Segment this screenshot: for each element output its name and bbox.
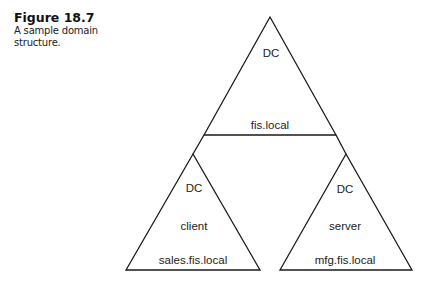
mfg-domain-name: mfg.fis.local: [315, 254, 376, 266]
mfg-role-label: server: [329, 220, 361, 232]
sales-role-label: client: [181, 220, 209, 232]
sales-domain-name: sales.fis.local: [159, 254, 227, 266]
domain-tree-diagram: DC fis.local DC client sales.fis.local D…: [0, 0, 438, 290]
mfg-dc-label: DC: [337, 183, 354, 195]
root-domain-name: fis.local: [251, 119, 289, 131]
root-domain-triangle: [204, 17, 336, 135]
child-domain-triangle-mfg: [280, 154, 412, 270]
root-right-extension: [336, 135, 346, 154]
child-domain-triangle-sales: [126, 154, 260, 270]
root-left-extension: [193, 135, 204, 154]
root-dc-label: DC: [263, 47, 280, 59]
sales-dc-label: DC: [186, 182, 203, 194]
